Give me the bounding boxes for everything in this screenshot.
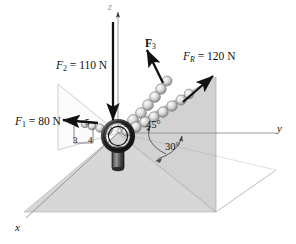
label-slope-vertical: 3 (73, 136, 78, 145)
label-angle-45: 45° (146, 120, 161, 131)
label-axis-y: y (277, 123, 282, 134)
label-axis-x: x (15, 222, 20, 233)
label-force-fr: FR = 120 N (183, 51, 235, 64)
statics-force-diagram: F1 = 80 N F2 = 110 N F3 FR = 120 N 45° 3… (0, 0, 296, 244)
label-axis-z: z (108, 2, 112, 12)
label-force-f1: F1 = 80 N (15, 116, 61, 129)
label-force-f3: F3 (145, 38, 156, 51)
ground-edge-right (216, 170, 276, 212)
label-force-f2: F2 = 110 N (56, 60, 107, 73)
label-slope-horizontal: 4 (88, 136, 93, 145)
force-arrow-f3 (147, 50, 163, 83)
label-angle-30: 30° (165, 142, 180, 153)
label-slope-hypotenuse: 5 (85, 118, 90, 127)
